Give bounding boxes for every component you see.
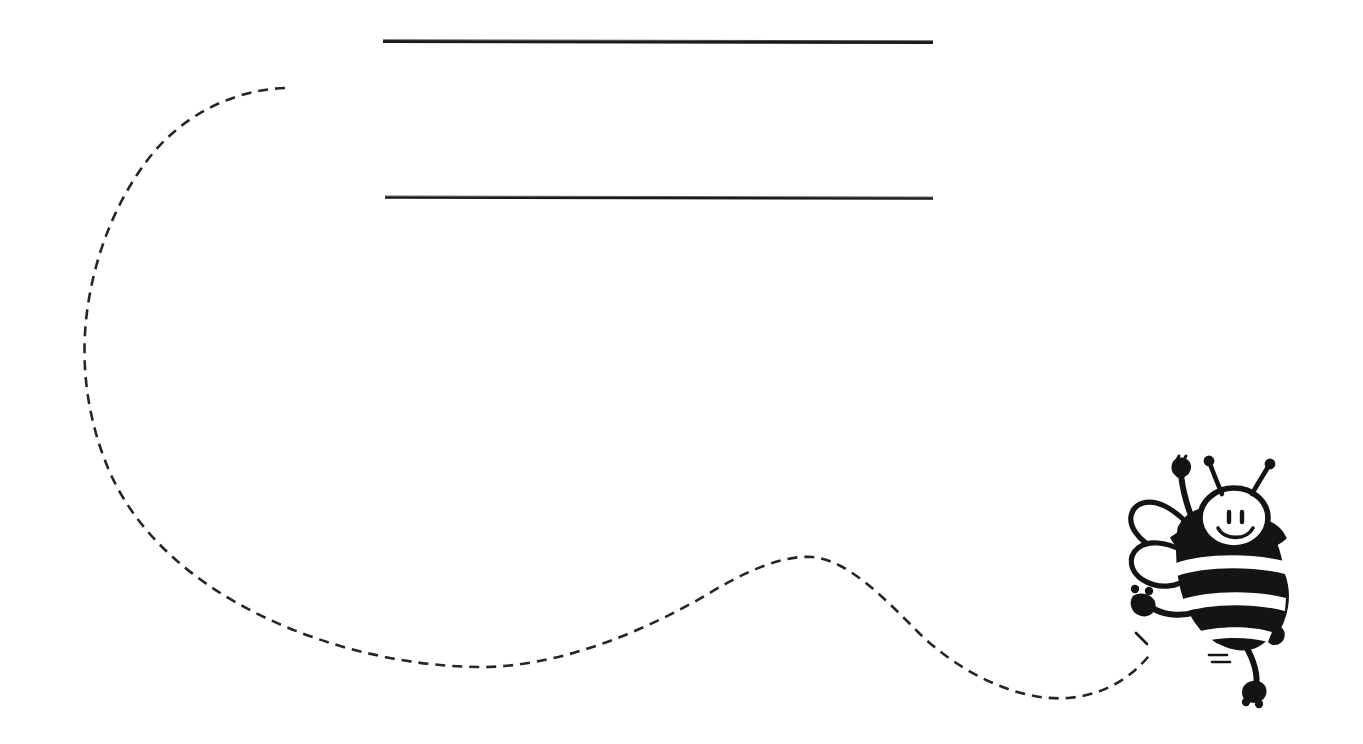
bee-finger-left-2: [1145, 587, 1153, 595]
bee-finger-left-1: [1131, 585, 1139, 593]
writing-line-1[interactable]: [383, 42, 933, 43]
worksheet-artwork: [0, 0, 1363, 744]
bee-leg: [1242, 645, 1265, 708]
bee-hand-left: [1132, 595, 1154, 615]
bee-toe-2: [1255, 700, 1263, 708]
writing-line-2[interactable]: [385, 198, 933, 199]
bee-antenna-left: [1204, 456, 1222, 494]
cartoon-bee[interactable]: [1131, 456, 1286, 709]
bee-toe-1: [1242, 698, 1250, 706]
writing-lines-group: [383, 40, 933, 199]
dashed-flight-path-group: [85, 88, 1152, 698]
worksheet-page: [0, 0, 1363, 744]
bee-antenna-right: [1252, 459, 1275, 494]
dashed-flight-path: [85, 88, 1152, 698]
